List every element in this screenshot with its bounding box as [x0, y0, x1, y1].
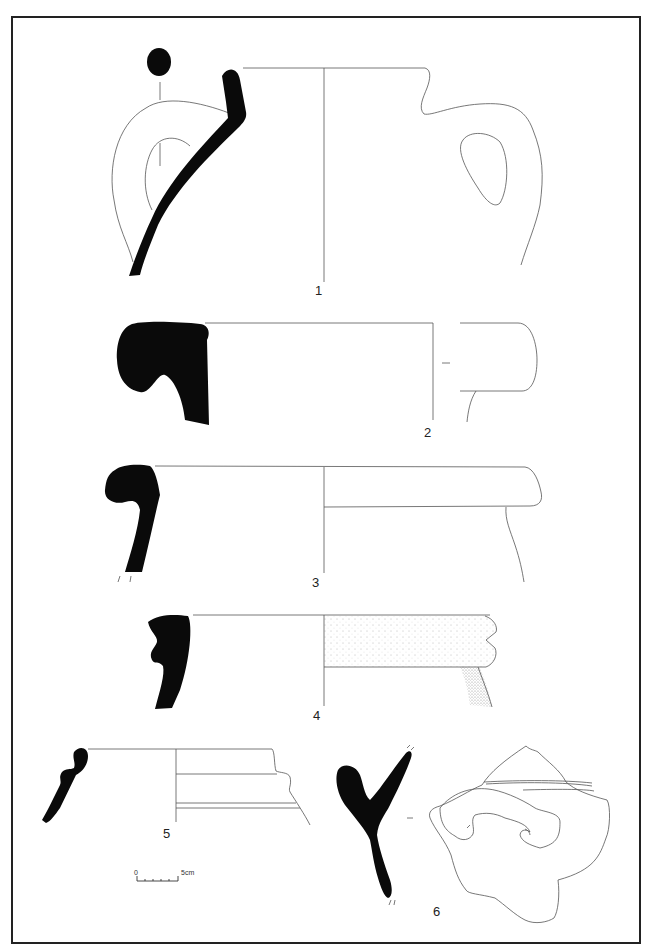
scale-label-start: 0	[134, 869, 138, 876]
wall-section-4	[148, 615, 190, 709]
figure-label-4: 4	[313, 708, 320, 723]
wall-section-2	[117, 322, 209, 425]
wall-section-3	[105, 465, 160, 572]
figure-6: 6	[336, 745, 609, 923]
stippled-rim-band-4	[324, 615, 497, 667]
wall-section-1	[129, 70, 246, 276]
exterior-profile-2	[460, 323, 537, 391]
wall-section-5	[42, 748, 88, 823]
figure-3: 3	[105, 465, 542, 590]
figure-label-5: 5	[163, 826, 170, 841]
figure-2: 2	[117, 322, 537, 440]
figure-4: 4	[148, 615, 497, 723]
scale-label-end: 5cm	[181, 869, 194, 876]
exterior-profile-5	[272, 749, 310, 825]
figure-label-6: 6	[433, 904, 440, 919]
exterior-profile-3	[324, 467, 542, 507]
handle-loop-right	[461, 133, 507, 204]
pottery-drawing-plate: 1 2 3	[0, 0, 654, 949]
figure-label-2: 2	[424, 425, 431, 440]
handle-outline-left	[112, 101, 229, 262]
stippled-shoulder-4	[460, 667, 492, 707]
wall-section-6	[336, 751, 411, 898]
figure-1: 1	[112, 48, 542, 298]
handle-section-1	[147, 48, 171, 76]
figure-5: 5	[42, 748, 310, 841]
sherd-outline-6	[429, 746, 609, 923]
figure-label-3: 3	[312, 575, 319, 590]
exterior-profile-1	[421, 68, 542, 265]
figure-label-1: 1	[315, 283, 322, 298]
rim-line-3	[155, 466, 525, 467]
plate-frame	[12, 17, 640, 943]
scale-bar: 0 5cm	[134, 869, 194, 881]
